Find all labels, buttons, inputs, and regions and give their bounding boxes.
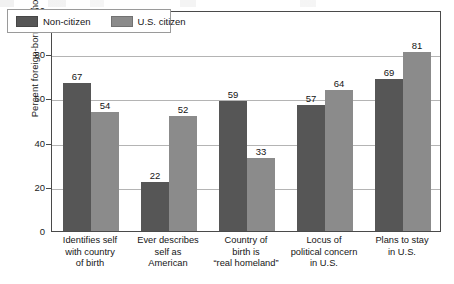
bar-chart: Percent foreign-born Latinos 67225957695… <box>0 0 454 284</box>
bar-value-label: 33 <box>256 146 267 157</box>
category-label-line: birth is <box>201 247 291 259</box>
bar-us-citizen: 64 <box>325 90 353 231</box>
bars-layer: 67225957695452336481 <box>52 12 440 231</box>
category-label-line: in U.S. <box>357 247 447 259</box>
category-label-line: “real homeland” <box>201 258 291 270</box>
y-axis-tick-mark <box>46 55 51 56</box>
bar-value-label: 22 <box>150 170 161 181</box>
bar-value-label: 64 <box>334 78 345 89</box>
category-label-line: political concern <box>279 247 369 259</box>
bar-value-label: 69 <box>384 67 395 78</box>
dark-swatch-icon <box>16 16 38 27</box>
y-axis-tick-label: 40 <box>11 138 45 149</box>
y-axis-tick-label: 20 <box>11 182 45 193</box>
bar-value-label: 67 <box>72 71 83 82</box>
category-label-line: with country <box>45 247 135 259</box>
legend-item-non-citizen: Non-citizen <box>16 16 91 27</box>
bar-us-citizen: 81 <box>403 52 431 231</box>
legend-label-us-citizen: U.S. citizen <box>138 16 186 27</box>
bar-non-citizen: 67 <box>63 83 91 231</box>
bar-value-label: 59 <box>228 89 239 100</box>
category-label-line: American <box>123 258 213 270</box>
light-swatch-icon <box>111 16 133 27</box>
category-label-line: Country of <box>201 235 291 247</box>
category-label-line: self as <box>123 247 213 259</box>
chart-legend: Non-citizen U.S. citizen <box>7 9 171 33</box>
bar-us-citizen: 54 <box>91 112 119 231</box>
plot-area: 67225957695452336481 <box>51 11 441 232</box>
category-label: Ever describesself asAmerican <box>123 235 213 270</box>
y-axis-tick-mark <box>46 99 51 100</box>
bar-non-citizen: 57 <box>297 105 325 231</box>
bar-non-citizen: 59 <box>219 101 247 231</box>
category-label-line: Locus of <box>279 235 369 247</box>
category-label-line: of birth <box>45 258 135 270</box>
category-label: Identifies selfwith countryof birth <box>45 235 135 270</box>
y-axis-tick-mark <box>46 188 51 189</box>
category-label-line: Ever describes <box>123 235 213 247</box>
y-axis-tick-mark <box>46 144 51 145</box>
category-label-line: Identifies self <box>45 235 135 247</box>
bar-value-label: 54 <box>100 100 111 111</box>
category-label-line: in U.S. <box>279 258 369 270</box>
bar-non-citizen: 69 <box>375 79 403 231</box>
bar-non-citizen: 22 <box>141 182 169 231</box>
category-label: Plans to stayin U.S. <box>357 235 447 258</box>
legend-item-us-citizen: U.S. citizen <box>111 16 186 27</box>
bar-us-citizen: 33 <box>247 158 275 231</box>
y-axis-tick-label: 0 <box>11 226 45 237</box>
y-axis-tick-label: 60 <box>11 93 45 104</box>
category-label: Country ofbirth is“real homeland” <box>201 235 291 270</box>
legend-label-non-citizen: Non-citizen <box>43 16 91 27</box>
bar-value-label: 57 <box>306 93 317 104</box>
scan-artifact-strip <box>0 0 454 7</box>
category-label-layer: Identifies selfwith countryof birthEver … <box>51 235 441 284</box>
category-label-line: Plans to stay <box>357 235 447 247</box>
bar-value-label: 52 <box>178 104 189 115</box>
y-axis-tick-label: 80 <box>11 49 45 60</box>
bar-value-label: 81 <box>412 40 423 51</box>
category-label: Locus ofpolitical concernin U.S. <box>279 235 369 270</box>
bar-us-citizen: 52 <box>169 116 197 231</box>
